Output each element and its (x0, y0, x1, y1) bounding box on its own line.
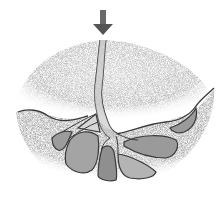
chamber-center (98, 146, 117, 181)
illustration (0, 0, 221, 197)
soil-cross-section (0, 0, 221, 197)
down-arrow-icon (93, 10, 113, 35)
soil-upper (14, 40, 214, 120)
